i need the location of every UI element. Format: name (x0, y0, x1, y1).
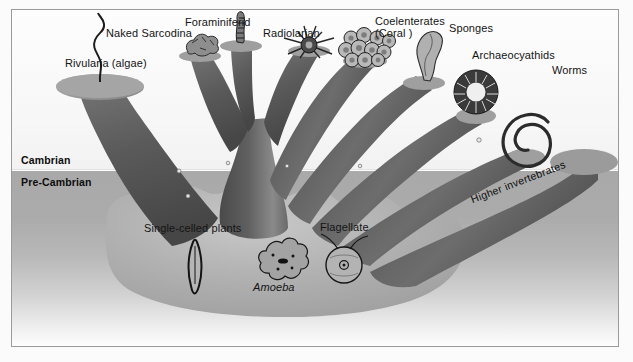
evolutionary-tree-figure: Cambrian Pre-Cambrian Rivularia (algae) … (0, 0, 633, 362)
label-coelenterates-coral: (Coral ) (375, 27, 412, 40)
label-rivularia: Rivularia (algae) (65, 57, 147, 70)
rivularia-filament-icon (94, 13, 104, 82)
era-label-precambrian: Pre-Cambrian (21, 176, 92, 188)
figure-frame: Cambrian Pre-Cambrian Rivularia (algae) … (11, 9, 619, 347)
label-naked-sarcodina: Naked Sarcodina (106, 27, 192, 40)
label-archaeocyathids: Archaeocyathids (472, 49, 555, 62)
label-coelenterates: Coelenterates (375, 15, 445, 28)
archaeocyathid-ring-icon (454, 70, 498, 114)
sponge-icon (417, 32, 442, 81)
label-single-celled-plants: Single-celled plants (144, 222, 241, 235)
label-radiolarian: Radiolarian (263, 27, 320, 40)
label-sponges: Sponges (449, 22, 493, 35)
era-label-cambrian: Cambrian (21, 154, 71, 166)
label-foraminiferid: Foraminiferid (185, 16, 251, 29)
label-flagellate: Flagellate (320, 221, 369, 234)
label-amoeba: Amoeba (253, 281, 295, 294)
label-worms: Worms (552, 64, 587, 77)
diatom-spindle-icon (189, 240, 202, 294)
